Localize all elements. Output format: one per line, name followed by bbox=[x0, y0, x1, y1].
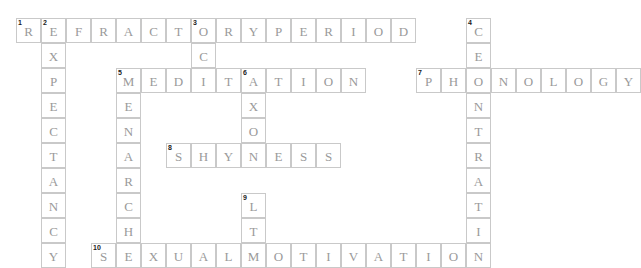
cell-letter: T bbox=[292, 250, 315, 263]
crossword-cell[interactable]: I bbox=[191, 68, 216, 93]
crossword-cell[interactable]: A bbox=[366, 243, 391, 268]
crossword-cell[interactable]: O bbox=[266, 243, 291, 268]
cell-letter: E bbox=[42, 25, 65, 38]
crossword-cell[interactable]: 1R bbox=[16, 18, 41, 43]
crossword-cell[interactable]: 5M bbox=[116, 68, 141, 93]
crossword-cell[interactable]: N bbox=[466, 93, 491, 118]
crossword-cell[interactable]: O bbox=[566, 68, 591, 93]
crossword-cell[interactable]: L bbox=[216, 243, 241, 268]
cell-letter: R bbox=[92, 25, 115, 38]
crossword-cell[interactable]: E bbox=[266, 143, 291, 168]
crossword-cell[interactable]: T bbox=[291, 243, 316, 268]
crossword-cell[interactable]: 10S bbox=[91, 243, 116, 268]
crossword-cell[interactable]: N bbox=[116, 118, 141, 143]
crossword-cell[interactable]: A bbox=[191, 243, 216, 268]
cell-letter: R bbox=[317, 25, 340, 38]
crossword-cell[interactable]: 2E bbox=[41, 18, 66, 43]
crossword-cell[interactable]: E bbox=[116, 243, 141, 268]
crossword-cell[interactable]: P bbox=[41, 68, 66, 93]
crossword-cell[interactable]: 7P bbox=[416, 68, 441, 93]
crossword-cell[interactable]: E bbox=[291, 18, 316, 43]
cell-letter: E bbox=[467, 50, 490, 63]
crossword-cell[interactable]: 3O bbox=[191, 18, 216, 43]
crossword-cell[interactable]: A bbox=[116, 143, 141, 168]
crossword-cell[interactable]: T bbox=[216, 68, 241, 93]
crossword-cell[interactable]: N bbox=[41, 193, 66, 218]
crossword-cell[interactable]: E bbox=[116, 93, 141, 118]
cell-letter: E bbox=[117, 250, 140, 263]
crossword-cell[interactable]: O bbox=[516, 68, 541, 93]
cell-letter: P bbox=[417, 75, 440, 88]
crossword-cell[interactable]: C bbox=[141, 18, 166, 43]
crossword-cell[interactable]: R bbox=[216, 18, 241, 43]
crossword-cell[interactable]: T bbox=[391, 243, 416, 268]
cell-letter: I bbox=[417, 250, 440, 263]
crossword-cell[interactable]: H bbox=[191, 143, 216, 168]
crossword-cell[interactable]: U bbox=[166, 243, 191, 268]
crossword-cell[interactable]: T bbox=[241, 218, 266, 243]
crossword-cell[interactable]: C bbox=[41, 118, 66, 143]
crossword-cell[interactable]: O bbox=[366, 18, 391, 43]
crossword-cell[interactable]: 4C bbox=[466, 18, 491, 43]
crossword-cell[interactable]: O bbox=[241, 118, 266, 143]
crossword-cell[interactable]: O bbox=[316, 68, 341, 93]
crossword-cell[interactable]: E bbox=[466, 43, 491, 68]
crossword-cell[interactable]: A bbox=[116, 18, 141, 43]
crossword-cell[interactable]: R bbox=[466, 143, 491, 168]
crossword-cell[interactable]: D bbox=[166, 68, 191, 93]
crossword-cell[interactable]: R bbox=[91, 18, 116, 43]
cell-letter: O bbox=[567, 75, 590, 88]
crossword-cell[interactable]: X bbox=[141, 243, 166, 268]
crossword-cell[interactable]: E bbox=[141, 68, 166, 93]
crossword-cell[interactable]: E bbox=[41, 93, 66, 118]
crossword-cell[interactable]: Y bbox=[216, 143, 241, 168]
crossword-cell[interactable]: T bbox=[166, 18, 191, 43]
crossword-cell[interactable]: A bbox=[466, 168, 491, 193]
crossword-cell[interactable]: R bbox=[116, 168, 141, 193]
crossword-cell[interactable]: A bbox=[41, 168, 66, 193]
crossword-cell[interactable]: D bbox=[391, 18, 416, 43]
crossword-cell[interactable]: Y bbox=[41, 243, 66, 268]
cell-letter: Y bbox=[42, 250, 65, 263]
crossword-cell[interactable]: H bbox=[116, 218, 141, 243]
crossword-cell[interactable]: L bbox=[541, 68, 566, 93]
crossword-cell[interactable]: C bbox=[116, 193, 141, 218]
crossword-cell[interactable]: Y bbox=[241, 18, 266, 43]
crossword-cell[interactable]: S bbox=[291, 143, 316, 168]
crossword-cell[interactable]: I bbox=[466, 218, 491, 243]
crossword-cell[interactable]: X bbox=[241, 93, 266, 118]
crossword-cell[interactable]: N bbox=[466, 243, 491, 268]
crossword-cell[interactable]: H bbox=[441, 68, 466, 93]
crossword-cell[interactable]: I bbox=[316, 243, 341, 268]
crossword-cell[interactable]: S bbox=[316, 143, 341, 168]
crossword-cell[interactable]: T bbox=[466, 118, 491, 143]
crossword-cell[interactable]: T bbox=[41, 143, 66, 168]
crossword-cell[interactable]: 6A bbox=[241, 68, 266, 93]
crossword-cell[interactable]: I bbox=[341, 18, 366, 43]
crossword-cell[interactable]: T bbox=[266, 68, 291, 93]
cell-letter: S bbox=[292, 150, 315, 163]
crossword-cell[interactable]: O bbox=[441, 243, 466, 268]
crossword-cell[interactable]: 9L bbox=[241, 193, 266, 218]
cell-letter: L bbox=[542, 75, 565, 88]
crossword-cell[interactable]: G bbox=[591, 68, 616, 93]
crossword-cell[interactable]: Y bbox=[616, 68, 641, 93]
cell-letter: T bbox=[42, 150, 65, 163]
crossword-cell[interactable]: I bbox=[416, 243, 441, 268]
crossword-cell[interactable]: T bbox=[466, 193, 491, 218]
cell-letter: Y bbox=[617, 75, 640, 88]
crossword-cell[interactable]: N bbox=[341, 68, 366, 93]
crossword-cell[interactable]: 8S bbox=[166, 143, 191, 168]
crossword-cell[interactable]: N bbox=[241, 143, 266, 168]
crossword-cell[interactable]: P bbox=[266, 18, 291, 43]
crossword-cell[interactable]: O bbox=[466, 68, 491, 93]
crossword-cell[interactable]: N bbox=[491, 68, 516, 93]
crossword-cell[interactable]: V bbox=[341, 243, 366, 268]
crossword-cell[interactable]: M bbox=[241, 243, 266, 268]
crossword-cell[interactable]: C bbox=[41, 218, 66, 243]
crossword-cell[interactable]: C bbox=[191, 43, 216, 68]
crossword-cell[interactable]: X bbox=[41, 43, 66, 68]
crossword-cell[interactable]: R bbox=[316, 18, 341, 43]
crossword-cell[interactable]: F bbox=[66, 18, 91, 43]
crossword-cell[interactable]: I bbox=[291, 68, 316, 93]
